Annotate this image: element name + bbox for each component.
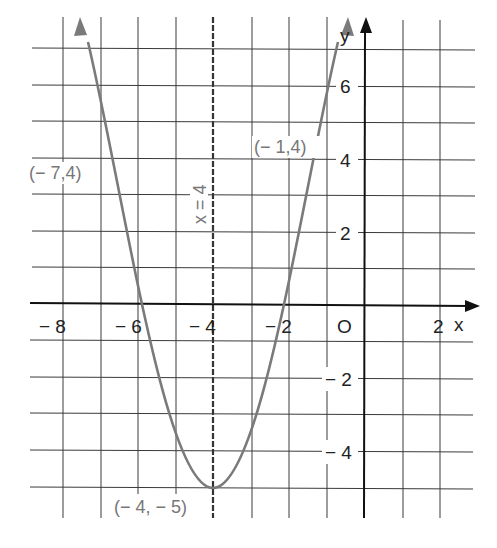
vertex-label: (− 4, − 5) xyxy=(114,497,187,517)
x-tick-label: − 6 xyxy=(115,316,142,337)
y-tick-label: 2 xyxy=(340,223,351,244)
curve-left-arrow-icon xyxy=(74,17,87,36)
x-tick-label: − 8 xyxy=(39,316,66,337)
symmetry-line-label: x = 4 xyxy=(190,184,210,224)
origin-label: O xyxy=(337,316,352,337)
y-axis-arrow-icon xyxy=(360,17,372,33)
x-tick-label: − 2 xyxy=(265,316,292,337)
y-axis xyxy=(364,30,365,518)
x-axis xyxy=(30,303,470,306)
parabola-graph: − 8 − 6 − 4 − 2 O 2 x y 6 4 2 − 2 − 4 (−… xyxy=(0,0,497,548)
y-tick-label: − 2 xyxy=(325,369,352,390)
x-tick-label: − 4 xyxy=(189,316,216,337)
point-label-left: (− 7,4) xyxy=(29,163,82,183)
x-tick-label: 2 xyxy=(433,316,444,337)
graph-canvas: − 8 − 6 − 4 − 2 O 2 x y 6 4 2 − 2 − 4 (−… xyxy=(0,0,497,548)
x-axis-arrow-icon xyxy=(465,300,480,312)
x-axis-label: x xyxy=(454,314,464,335)
y-tick-label: 6 xyxy=(340,76,351,97)
y-tick-label: 4 xyxy=(340,150,351,171)
y-axis-label: y xyxy=(340,25,350,46)
y-tick-label: − 4 xyxy=(325,442,352,463)
point-label-right: (− 1,4) xyxy=(254,137,307,157)
